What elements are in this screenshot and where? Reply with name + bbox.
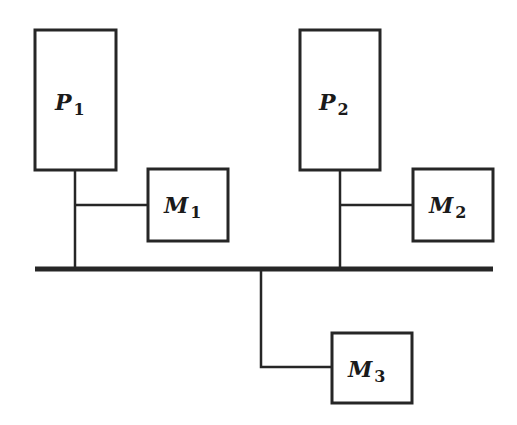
shared-bus-diagram: P1 M1 P2 M2 M3 [0, 0, 517, 425]
memory-m3: M3 [332, 333, 412, 403]
processor-p1: P1 [35, 30, 116, 170]
m3-link [261, 269, 332, 367]
processor-p2: P2 [300, 30, 380, 170]
memory-m2: M2 [413, 169, 493, 241]
memory-m1: M1 [148, 169, 228, 241]
